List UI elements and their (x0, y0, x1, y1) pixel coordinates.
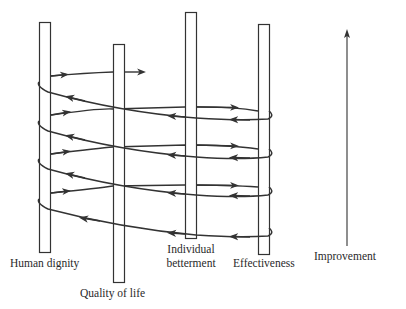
pillar-quality-of-life (114, 45, 125, 283)
pillars (40, 13, 270, 283)
spiral-front-strands (38, 82, 271, 237)
label-individual: Individual (160, 242, 222, 256)
label-betterment: betterment (160, 256, 222, 270)
improvement-arrow (344, 29, 350, 246)
label-human-dignity: Human dignity (10, 256, 79, 270)
pillar-human-dignity (40, 23, 51, 253)
label-individual-betterment: Individual betterment (160, 242, 222, 270)
label-improvement: Improvement (314, 249, 376, 263)
pillar-individual-betterment (186, 13, 197, 239)
spiral-back-strands (51, 72, 258, 193)
pillar-effectiveness (259, 25, 270, 255)
label-effectiveness: Effectiveness (233, 256, 295, 270)
label-quality-of-life: Quality of life (80, 286, 145, 300)
